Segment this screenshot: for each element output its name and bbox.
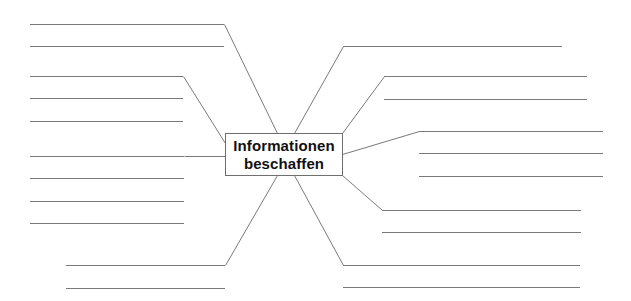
branch-lower-right <box>343 176 582 233</box>
branch-connector <box>343 132 420 155</box>
central-topic-line2: beschaffen <box>244 155 324 173</box>
branch-upper-left <box>30 77 226 144</box>
branch-connector <box>295 47 344 134</box>
central-topic-box: Informationen beschaffen <box>225 133 343 176</box>
branch-connector <box>184 77 226 144</box>
branch-connector <box>343 176 383 211</box>
branch-middle-left <box>30 157 226 224</box>
branch-middle-right <box>343 132 604 177</box>
branch-bottom-right <box>295 176 581 288</box>
branch-connector <box>225 25 278 134</box>
branch-connector <box>343 77 385 134</box>
branch-connector <box>295 176 344 266</box>
branch-upper-right <box>343 77 588 134</box>
branch-bottom-left <box>66 176 278 289</box>
branch-connector <box>226 176 278 266</box>
branch-top-right <box>295 47 563 134</box>
central-topic-line1: Informationen <box>233 137 334 155</box>
branch-top-left <box>30 25 278 134</box>
